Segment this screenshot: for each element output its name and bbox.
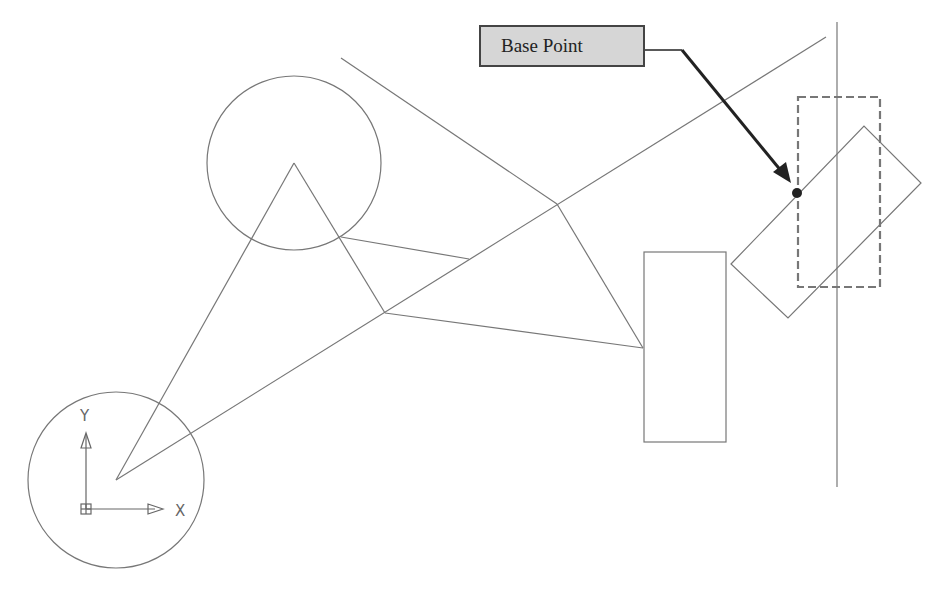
tangent-line: [341, 58, 557, 204]
ucs-icon: [81, 433, 163, 514]
callout-label: Base Point: [501, 35, 583, 57]
triangle-edge-left: [116, 163, 294, 480]
edge-circle-to-diagonal: [341, 237, 469, 259]
edge-vertex-to-rect: [557, 204, 643, 348]
base-point-callout: Base Point: [479, 25, 645, 67]
dashed-rectangle: [798, 97, 880, 287]
base-point-dot: [792, 188, 802, 198]
edge-bottom: [385, 313, 643, 348]
ucs-y-label: Y: [79, 407, 90, 425]
rectangle: [644, 252, 726, 442]
leader-arrow: [645, 50, 791, 183]
drawing-canvas: Y X: [0, 0, 944, 591]
triangle-edge-right: [294, 163, 385, 313]
rotated-rectangle: [731, 126, 921, 318]
long-diagonal-line: [116, 37, 826, 480]
ucs-x-label: X: [175, 502, 185, 520]
